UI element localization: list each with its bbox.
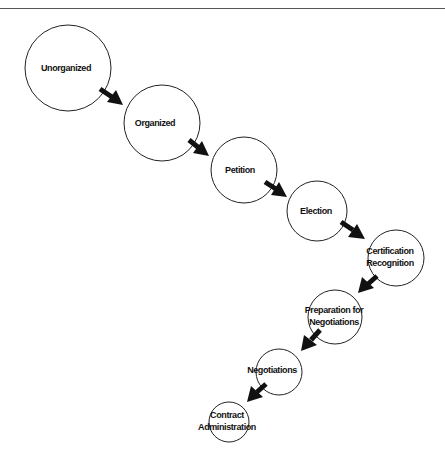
arrow-shaft	[368, 276, 377, 284]
node-label-line-2: Administration	[198, 422, 256, 432]
node-petition: Petition	[211, 137, 277, 203]
node-label-line-2: Negotiations	[309, 317, 359, 327]
process-diagram: Unorganized Organized Petition Election …	[0, 0, 445, 460]
arrow-shaft	[189, 140, 199, 148]
arrow-shaft	[100, 89, 112, 97]
node-organized: Organized	[124, 85, 200, 161]
node-label: Petition	[225, 165, 255, 175]
node-label-line-1: Certification	[366, 246, 413, 256]
node-contract-administration: Contract Administration	[198, 402, 256, 442]
arrow-organized-to-petition	[189, 140, 209, 156]
node-label: Organized	[135, 118, 175, 128]
node-label-line-1: Preparation for	[305, 305, 364, 315]
arrow-unorganized-to-organized	[100, 89, 123, 105]
arrow-negotiations-to-contract	[247, 384, 266, 402]
node-unorganized: Unorganized	[25, 25, 111, 111]
node-election: Election	[287, 181, 347, 241]
arrow-shaft	[341, 222, 353, 230]
node-negotiations: Negotiations	[247, 349, 302, 395]
node-label: Election	[300, 206, 332, 216]
node-label-line-2: Recognition	[366, 258, 414, 268]
node-label: Negotiations	[247, 365, 297, 375]
node-label: Unorganized	[41, 63, 91, 73]
arrow-shaft	[257, 384, 266, 392]
arrow-election-to-certification	[341, 222, 365, 239]
arrow-petition-to-election	[265, 182, 287, 197]
arrow-preparation-to-negotiations	[301, 330, 320, 351]
node-label-line-1: Contract	[210, 410, 244, 420]
arrow-certification-to-preparation	[358, 276, 377, 293]
